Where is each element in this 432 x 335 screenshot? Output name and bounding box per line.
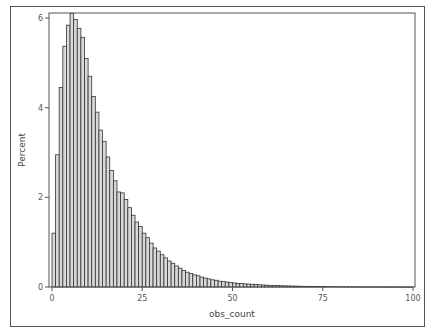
- histogram-bar: [92, 96, 96, 287]
- histogram-bar: [74, 19, 78, 287]
- histogram-bar: [77, 28, 81, 287]
- histogram-bar: [178, 268, 182, 287]
- histogram-bar: [189, 274, 193, 287]
- histogram-bar: [146, 238, 150, 287]
- histogram-bar: [131, 215, 135, 287]
- histogram-bar: [106, 157, 110, 287]
- histogram-bar: [157, 251, 161, 287]
- histogram-bar: [225, 282, 229, 287]
- histogram-bar: [135, 222, 139, 287]
- x-tick-label: 100: [405, 294, 420, 303]
- histogram-bar: [196, 276, 200, 287]
- histogram-bar: [52, 233, 56, 287]
- histogram-bar: [88, 76, 92, 287]
- x-tick-label: 0: [49, 294, 54, 303]
- histogram-bars: [52, 14, 413, 288]
- histogram-bar: [171, 263, 175, 287]
- histogram-bar: [168, 261, 172, 287]
- histogram-bar: [153, 248, 157, 287]
- y-axis: 0246: [38, 14, 49, 292]
- histogram-bar: [160, 255, 164, 287]
- histogram-bar: [56, 155, 60, 287]
- histogram-bar: [204, 278, 208, 287]
- histogram-bar: [70, 14, 74, 287]
- histogram-bar: [233, 283, 237, 287]
- histogram-bar: [99, 130, 103, 287]
- y-axis-title: Percent: [17, 133, 27, 167]
- histogram-bar: [128, 208, 132, 287]
- histogram-bar: [142, 233, 146, 287]
- y-tick-label: 2: [38, 193, 43, 202]
- x-axis-title: obs_count: [209, 309, 255, 319]
- histogram-bar: [182, 270, 186, 287]
- histogram-bar: [186, 272, 190, 287]
- histogram-bar: [63, 46, 67, 287]
- histogram-bar: [59, 87, 63, 287]
- histogram-bar: [218, 281, 222, 287]
- histogram-bar: [84, 58, 88, 287]
- histogram-bar: [236, 283, 240, 287]
- x-tick-label: 25: [137, 294, 147, 303]
- histogram-bar: [207, 279, 211, 287]
- histogram-bar: [139, 226, 143, 287]
- histogram-bar: [229, 283, 233, 287]
- histogram-bar: [113, 181, 117, 287]
- histogram-bar: [124, 200, 128, 287]
- y-tick-label: 4: [38, 104, 43, 113]
- histogram-bar: [117, 192, 121, 287]
- x-tick-label: 75: [318, 294, 328, 303]
- y-tick-label: 6: [38, 14, 43, 23]
- histogram-bar: [81, 37, 85, 287]
- histogram-bar: [110, 170, 114, 287]
- histogram-bar: [103, 141, 107, 287]
- x-tick-label: 50: [227, 294, 237, 303]
- histogram-bar: [149, 243, 153, 287]
- histogram-bar: [214, 280, 218, 287]
- histogram-bar: [211, 280, 215, 287]
- y-tick-label: 0: [38, 283, 43, 292]
- histogram-chart: 0246 0255075100 Percent obs_count: [0, 0, 432, 335]
- histogram-bar: [200, 277, 204, 287]
- histogram-bar: [240, 284, 244, 287]
- histogram-bar: [66, 25, 70, 287]
- histogram-bar: [164, 258, 168, 287]
- histogram-bar: [222, 282, 226, 287]
- histogram-bar: [175, 266, 179, 287]
- histogram-bar: [121, 193, 125, 287]
- histogram-bar: [193, 275, 197, 287]
- x-axis: 0255075100: [49, 287, 420, 303]
- histogram-bar: [95, 112, 99, 287]
